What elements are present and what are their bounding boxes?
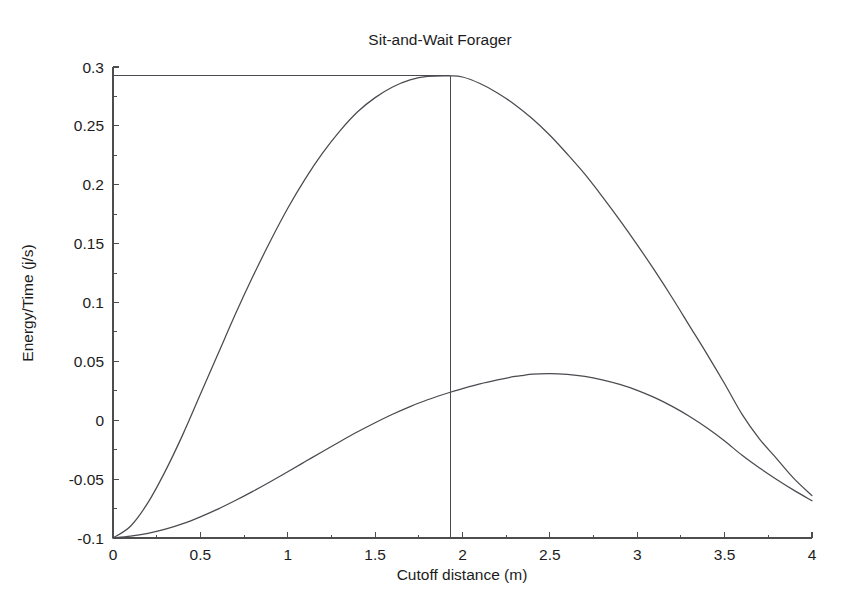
x-tick-label: 1.5 <box>364 546 386 563</box>
upper-curve <box>113 76 812 538</box>
x-axis-tick-labels: 00.511.522.533.54 <box>109 546 817 563</box>
y-axis-tick-labels: -0.1-0.0500.050.10.150.20.250.3 <box>69 59 105 547</box>
y-tick-label: 0.3 <box>82 59 104 76</box>
y-tick-label: 0.15 <box>74 235 104 252</box>
x-tick-label: 2 <box>458 546 467 563</box>
chart-title: Sit-and-Wait Forager <box>368 31 511 48</box>
x-tick-label: 2.5 <box>539 546 561 563</box>
x-tick-label: 3.5 <box>714 546 736 563</box>
y-tick-label: 0.05 <box>74 353 104 370</box>
axes <box>113 67 812 538</box>
y-tick-label: 0.1 <box>82 294 104 311</box>
x-tick-label: 0.5 <box>190 546 212 563</box>
x-tick-label: 1 <box>283 546 292 563</box>
lower-curve <box>113 374 812 538</box>
x-axis-ticks <box>113 532 812 538</box>
y-tick-label: 0 <box>95 412 104 429</box>
x-axis-title: Cutoff distance (m) <box>397 566 528 583</box>
x-tick-label: 0 <box>109 546 118 563</box>
sit-and-wait-forager-chart: Sit-and-Wait Forager 00.511.522.533.54 -… <box>0 0 843 600</box>
y-axis-title: Energy/Time (j/s) <box>19 244 36 361</box>
figure-canvas: Sit-and-Wait Forager 00.511.522.533.54 -… <box>0 0 843 600</box>
y-tick-label: 0.2 <box>82 176 104 193</box>
optimum-markers <box>113 76 450 538</box>
x-tick-label: 3 <box>633 546 642 563</box>
y-tick-label: -0.1 <box>77 530 104 547</box>
y-tick-label: -0.05 <box>69 471 104 488</box>
x-tick-label: 4 <box>808 546 817 563</box>
data-curves <box>113 76 812 538</box>
y-tick-label: 0.25 <box>74 117 104 134</box>
y-axis-ticks <box>113 67 119 538</box>
